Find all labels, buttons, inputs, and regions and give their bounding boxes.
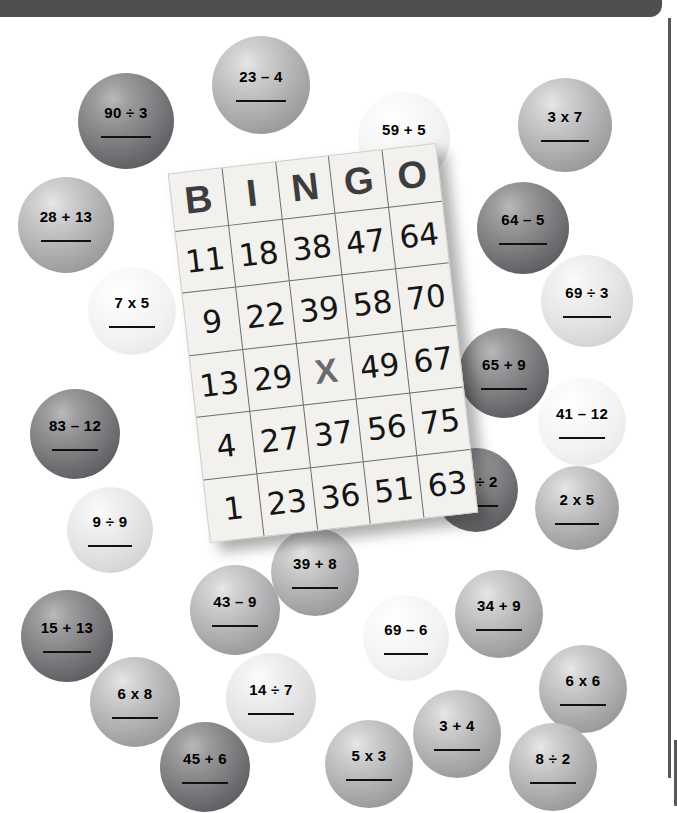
math-problem-label: 34 + 9 xyxy=(477,598,521,613)
math-problem-ball: 64 – 5 xyxy=(477,182,569,274)
bingo-header-letter: G xyxy=(329,150,389,214)
top-decorative-bar xyxy=(0,0,640,17)
bingo-number-cell: 70 xyxy=(396,264,456,332)
math-problem-ball: 2 x 5 xyxy=(535,466,619,550)
math-problem-ball: 43 – 9 xyxy=(190,565,280,655)
bingo-number-cell: 37 xyxy=(304,400,365,468)
answer-blank-line[interactable] xyxy=(499,243,547,245)
math-problem-ball: 9 ÷ 9 xyxy=(67,487,153,573)
answer-blank-line[interactable] xyxy=(182,782,229,784)
math-problem-ball: 34 + 9 xyxy=(455,570,543,658)
math-problem-ball: 14 ÷ 7 xyxy=(226,653,316,743)
answer-blank-line[interactable] xyxy=(481,388,528,390)
answer-blank-line[interactable] xyxy=(530,782,576,784)
math-problem-ball: 65 + 9 xyxy=(459,328,549,418)
answer-blank-line[interactable] xyxy=(292,587,338,589)
math-problem-label: 83 – 12 xyxy=(49,418,101,433)
math-problem-label: 8 ÷ 2 xyxy=(536,751,571,766)
answer-blank-line[interactable] xyxy=(52,449,99,451)
bingo-number-cell: 4 xyxy=(197,412,258,480)
math-problem-label: 59 + 5 xyxy=(382,122,426,137)
answer-blank-line[interactable] xyxy=(434,749,480,751)
answer-blank-line[interactable] xyxy=(541,140,590,142)
math-problem-ball: 15 + 13 xyxy=(21,590,113,682)
bingo-header-letter: O xyxy=(383,144,442,208)
math-problem-ball: 6 x 8 xyxy=(90,657,180,747)
math-problem-label: 41 – 12 xyxy=(556,406,608,421)
math-problem-label: 69 – 6 xyxy=(384,622,428,637)
answer-blank-line[interactable] xyxy=(43,651,91,653)
answer-blank-line[interactable] xyxy=(346,779,392,781)
bingo-number-cell: 29 xyxy=(243,344,304,412)
math-problem-ball: 69 ÷ 3 xyxy=(541,255,633,347)
math-problem-ball: 45 + 6 xyxy=(160,722,250,812)
answer-blank-line[interactable] xyxy=(109,326,155,328)
bingo-header-letter: B xyxy=(169,168,229,232)
math-problem-label: 39 + 8 xyxy=(293,556,337,571)
math-problem-label: 7 x 5 xyxy=(115,295,150,310)
bingo-number-cell: 9 xyxy=(183,288,244,356)
bingo-number-cell: 22 xyxy=(236,282,297,350)
math-problem-label: 9 ÷ 9 xyxy=(93,514,128,529)
answer-blank-line[interactable] xyxy=(560,704,606,706)
bingo-number-cell: 39 xyxy=(289,276,350,344)
bingo-number-cell: 38 xyxy=(282,214,343,282)
bingo-number-cell: 75 xyxy=(410,388,470,456)
bingo-card: BINGO11183847649223958701329X49674273756… xyxy=(168,143,478,543)
bingo-number-cell: 23 xyxy=(257,468,318,536)
bingo-number-cell: 64 xyxy=(389,202,449,270)
math-problem-ball: 41 – 12 xyxy=(538,378,626,466)
bingo-number-cell: 18 xyxy=(229,220,290,288)
math-problem-label: 6 x 8 xyxy=(118,686,153,701)
math-problem-ball: 7 x 5 xyxy=(88,267,176,355)
bingo-number-cell: 27 xyxy=(250,406,311,474)
math-problem-ball: 8 ÷ 2 xyxy=(509,723,597,811)
math-problem-ball: 83 – 12 xyxy=(30,389,120,479)
bingo-number-cell: 1 xyxy=(204,474,265,542)
answer-blank-line[interactable] xyxy=(384,653,429,655)
answer-blank-line[interactable] xyxy=(41,240,91,242)
math-problem-ball: 90 ÷ 3 xyxy=(78,73,174,169)
math-problem-ball: 28 + 13 xyxy=(18,177,114,273)
math-problem-label: 23 – 4 xyxy=(239,69,283,84)
answer-blank-line[interactable] xyxy=(236,100,287,102)
answer-blank-line[interactable] xyxy=(212,625,259,627)
bingo-number-cell: 51 xyxy=(364,456,425,524)
math-problem-label: 6 x 6 xyxy=(566,673,601,688)
bingo-number-cell: 67 xyxy=(403,326,463,394)
top-bar-corner-cap xyxy=(636,0,662,17)
math-problem-label: 28 + 13 xyxy=(40,209,93,224)
math-problem-label: 5 x 3 xyxy=(352,748,387,763)
math-problem-ball: 3 x 7 xyxy=(518,78,612,172)
bingo-number-cell: 49 xyxy=(350,332,411,400)
bingo-number-cell: 13 xyxy=(190,350,251,418)
bingo-header-letter: I xyxy=(222,162,282,226)
answer-blank-line[interactable] xyxy=(563,316,611,318)
answer-blank-line[interactable] xyxy=(555,523,599,525)
math-problem-label: 43 – 9 xyxy=(213,594,257,609)
math-problem-ball: 5 x 3 xyxy=(325,720,413,808)
answer-blank-line[interactable] xyxy=(559,437,605,439)
answer-blank-line[interactable] xyxy=(112,717,159,719)
answer-blank-line[interactable] xyxy=(88,545,133,547)
bingo-number-cell: 56 xyxy=(357,394,418,462)
math-problem-ball: 6 x 6 xyxy=(539,645,627,733)
math-problem-label: 3 + 4 xyxy=(439,718,474,733)
right-border-curve xyxy=(640,740,677,806)
math-problem-label: 64 – 5 xyxy=(501,212,545,227)
math-problem-ball: 3 + 4 xyxy=(413,690,501,778)
answer-blank-line[interactable] xyxy=(476,629,522,631)
math-problem-label: 15 + 13 xyxy=(41,620,94,635)
bingo-number-cell: 63 xyxy=(418,450,478,518)
math-problem-label: 3 x 7 xyxy=(548,109,583,124)
bingo-header-letter: N xyxy=(276,156,336,220)
answer-blank-line[interactable] xyxy=(248,713,295,715)
bingo-number-cell: 47 xyxy=(336,208,397,276)
bingo-free-space: X xyxy=(297,338,358,406)
math-problem-label: 90 ÷ 3 xyxy=(104,105,147,120)
math-problem-ball: 23 – 4 xyxy=(212,36,310,134)
math-problem-label: 65 + 9 xyxy=(482,357,526,372)
math-problem-label: 14 ÷ 7 xyxy=(249,682,292,697)
answer-blank-line[interactable] xyxy=(101,136,151,138)
math-problem-ball: 39 + 8 xyxy=(271,528,359,616)
